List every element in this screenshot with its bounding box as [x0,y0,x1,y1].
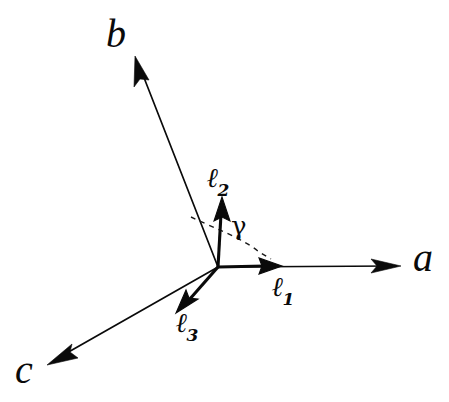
angle-label-gamma: γ [231,213,247,239]
vector-label-l3-subscript: 3 [187,325,199,345]
axes-diagram-svg [0,0,449,402]
vector-label-l1-subscript: 1 [283,289,295,309]
vector-l1-line [218,266,265,267]
axis-c-arrowhead [47,344,78,365]
vector-label-l2: ℓ2 [207,164,230,196]
vector-label-l1-base: ℓ [272,271,284,302]
vector-l3-line [189,267,218,300]
vector-l2-line [218,214,221,267]
vector-label-l3: ℓ3 [176,309,199,341]
vector-label-l1: ℓ1 [272,273,295,305]
axis-label-b: b [106,14,126,54]
axis-b-group [134,56,218,267]
vector-label-l2-base: ℓ [207,162,219,193]
figure-canvas: b a c ℓ2 ℓ1 ℓ3 γ [0,0,449,402]
axis-label-a: a [413,238,433,278]
axis-label-c: c [15,350,33,390]
axis-b-arrowhead [134,56,149,87]
vector-l2-group [214,197,230,267]
vector-label-l2-subscript: 2 [218,180,230,200]
vector-l2-arrowhead [214,197,230,221]
vector-label-l3-base: ℓ [176,307,188,338]
